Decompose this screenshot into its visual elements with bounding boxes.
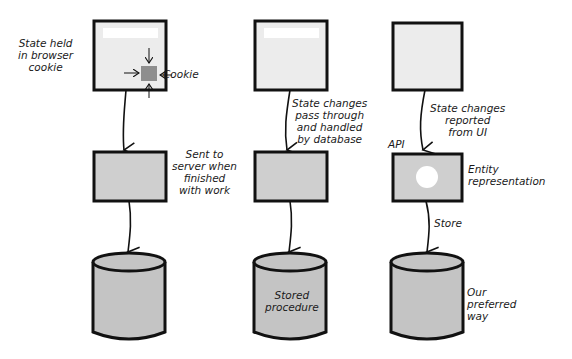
database-cylinder-3	[391, 253, 463, 339]
database-cylinder-1	[93, 253, 165, 339]
sent-to-server-label: Sent to server when finished with work	[172, 148, 237, 196]
preferred-way-label: Our preferred way	[467, 286, 516, 322]
server-box-2	[255, 152, 327, 201]
browser-cookie-label: State held in browser cookie	[18, 37, 73, 73]
browser-window-api	[393, 23, 462, 90]
pass-through-database-label: State changes pass through and handled b…	[292, 97, 367, 145]
arrow-entity-to-db	[426, 201, 429, 252]
browser-window-database	[255, 21, 327, 90]
arrow-browser-to-api	[421, 90, 425, 150]
entity-box	[393, 154, 462, 201]
stored-procedure-label: Stored procedure	[265, 289, 319, 313]
arrow-server-to-db-1	[128, 201, 131, 252]
store-label: Store	[434, 217, 462, 229]
api-label: API	[388, 138, 405, 150]
arrow-browser-to-server-2	[286, 90, 290, 150]
arrow-browser-to-server-1	[123, 90, 126, 150]
server-box-1	[94, 152, 166, 201]
entity-representation-label: Entity representation	[468, 163, 545, 187]
cookie-label: Cookie	[163, 68, 199, 80]
arrow-server-to-db-2	[289, 201, 292, 252]
reported-from-ui-label: State changes reported from UI	[430, 102, 505, 138]
